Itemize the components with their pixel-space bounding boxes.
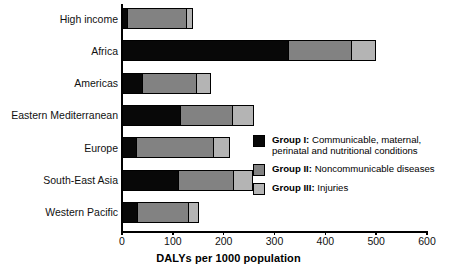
bar-segment-group-iii [186,8,193,29]
legend-item: Group III: Injuries [253,182,457,195]
bar-segment-group-iii [233,170,253,191]
bar-segment-group-i [122,202,138,223]
legend-swatch-icon [253,164,265,176]
x-tick-label: 500 [367,236,385,247]
bar-americas [122,73,211,94]
x-tick-label: 100 [164,236,182,247]
x-tick-label: 300 [266,236,284,247]
bar-high-income [122,8,193,29]
bar-segment-group-i [122,73,143,94]
category-label: Western Pacific [45,207,118,218]
legend-item: Group I: Communicable, maternal, perinat… [253,134,457,157]
bar-segment-group-i [122,105,181,126]
x-tick-label: 400 [317,236,335,247]
category-label: Africa [91,46,118,57]
bar-segment-group-i [122,40,289,61]
category-label: Eastern Mediterranean [11,110,118,121]
bar-africa [122,40,376,61]
category-label: High income [60,13,118,24]
legend-label: Group III: Injuries [272,182,348,193]
legend-swatch-icon [253,135,265,147]
bar-segment-group-i [122,170,179,191]
category-label: South-East Asia [43,175,118,186]
bar-south-east-asia [122,170,253,191]
x-tick-label: 600 [418,236,436,247]
bar-segment-group-ii [127,8,187,29]
bar-segment-group-ii [180,105,233,126]
x-tick-label: 200 [215,236,233,247]
chart-legend: Group I: Communicable, maternal, perinat… [253,134,457,201]
bar-segment-group-iii [351,40,376,61]
bar-segment-group-ii [136,137,214,158]
legend-label: Group II: Noncommunicable diseases [272,163,435,174]
bar-segment-group-iii [213,137,229,158]
dalys-stacked-bar-chart: High incomeAfricaAmericasEastern Mediter… [0,0,457,279]
bar-segment-group-iii [196,73,211,94]
legend-item: Group II: Noncommunicable diseases [253,163,457,176]
bar-segment-group-ii [137,202,189,223]
bar-segment-group-i [122,137,137,158]
bar-western-pacific [122,202,199,223]
x-axis-title: DALYs per 1000 population [0,252,457,264]
bar-segment-group-ii [142,73,197,94]
category-label: Europe [84,142,118,153]
category-label: Americas [74,78,118,89]
legend-swatch-icon [253,183,265,195]
bar-eastern-mediterranean [122,105,254,126]
bar-segment-group-ii [178,170,234,191]
x-tick-label: 0 [119,236,125,247]
bar-segment-group-ii [288,40,352,61]
legend-label: Group I: Communicable, maternal, perinat… [272,134,457,157]
category-axis-labels: High incomeAfricaAmericasEastern Mediter… [0,0,118,240]
bar-segment-group-iii [232,105,254,126]
bar-europe [122,137,230,158]
bar-segment-group-iii [188,202,199,223]
